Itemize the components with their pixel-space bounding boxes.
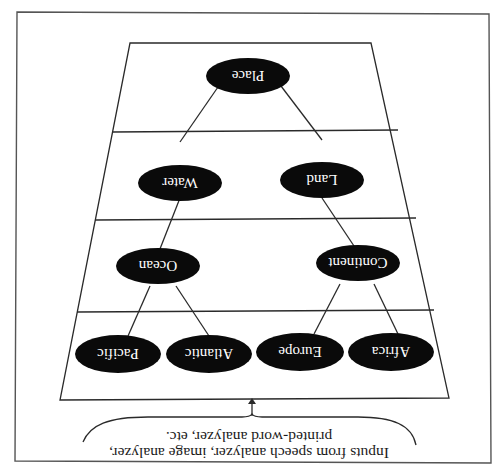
- edge-continent-africa: [374, 284, 398, 334]
- node-land: Land: [280, 162, 364, 198]
- svg-text:Pacific: Pacific: [97, 346, 139, 362]
- node-water: Water: [138, 165, 222, 201]
- node-atlantic: Atlantic: [166, 335, 252, 373]
- svg-text:Water: Water: [162, 175, 197, 191]
- svg-text:Europe: Europe: [278, 344, 322, 360]
- edge-land-continent: [322, 198, 358, 252]
- svg-text:Ocean: Ocean: [138, 258, 177, 274]
- svg-text:Continent: Continent: [328, 255, 388, 271]
- svg-text:Africa: Africa: [372, 344, 411, 360]
- node-europe: Europe: [256, 333, 344, 371]
- level-divider-3: [112, 130, 398, 132]
- caption-line-2: printed-word analyzer, etc.: [166, 429, 332, 446]
- svg-text:Atlantic: Atlantic: [185, 346, 234, 362]
- node-pacific: Pacific: [75, 335, 161, 373]
- svg-text:Land: Land: [306, 172, 337, 188]
- node-continent: Continent: [316, 245, 400, 281]
- hierarchy-diagram: Place Water Land Ocean Continent Pacific: [0, 0, 498, 470]
- svg-text:Place: Place: [231, 68, 264, 84]
- level-divider-2: [95, 218, 416, 220]
- node-africa: Africa: [348, 333, 434, 371]
- node-place: Place: [206, 58, 290, 94]
- level-divider-1: [77, 310, 434, 312]
- edge-continent-europe: [314, 284, 340, 334]
- edge-water-ocean: [158, 198, 180, 254]
- node-ocean: Ocean: [116, 248, 200, 284]
- diagram-stage: Place Water Land Ocean Continent Pacific: [0, 0, 498, 470]
- caption-line-1: Inputs from speech analyzer, image analy…: [109, 445, 389, 462]
